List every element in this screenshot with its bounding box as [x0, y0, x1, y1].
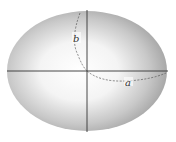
semi-minor-label: b [73, 33, 79, 44]
ellipse-diagram: b a [0, 0, 176, 142]
semi-major-label: a [125, 77, 131, 88]
